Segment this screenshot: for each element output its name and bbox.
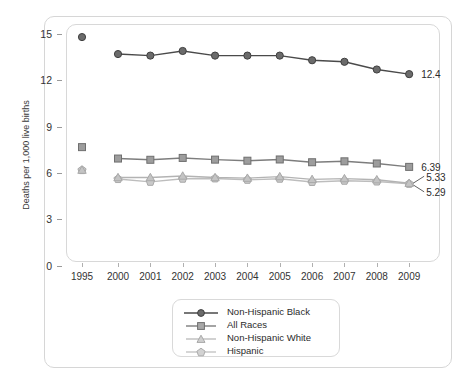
y-tick-mark: [57, 266, 62, 267]
y-tick-label: 0: [30, 260, 52, 272]
x-tick-mark: [150, 263, 151, 267]
x-tick-mark: [377, 263, 378, 267]
legend-label: Hispanic: [221, 345, 263, 356]
y-tick-mark: [57, 127, 62, 128]
label-non-hispanic-white: 5.33: [426, 172, 445, 183]
y-tick-label: 9: [30, 121, 52, 133]
label-hispanic: 5.29: [426, 186, 445, 197]
label-non-hispanic-black: 12.4: [421, 69, 440, 80]
legend-item-hispanic[interactable]: Hispanic: [181, 344, 339, 357]
y-tick-mark: [57, 173, 62, 174]
x-tick-label: 2004: [236, 271, 258, 282]
x-tick-label: 1995: [71, 271, 93, 282]
legend-label: Non-Hispanic Black: [221, 306, 310, 317]
x-tick-mark: [280, 263, 281, 267]
legend-item-all-races[interactable]: All Races: [181, 318, 339, 331]
x-tick-label: 2000: [107, 271, 129, 282]
x-tick-mark: [215, 263, 216, 267]
x-tick-label: 2009: [398, 271, 420, 282]
x-tick-mark: [409, 263, 410, 267]
legend-label: Non-Hispanic White: [221, 332, 311, 343]
x-tick-label: 2002: [172, 271, 194, 282]
legend-marker-circle-icon: [181, 305, 221, 317]
y-tick-label: 6: [30, 167, 52, 179]
chart-legend: Non-Hispanic Black All Races Non-Hispani…: [172, 299, 340, 357]
x-tick-mark: [344, 263, 345, 267]
x-tick-mark: [118, 263, 119, 267]
x-tick-label: 2003: [204, 271, 226, 282]
plot-area-border: [66, 24, 440, 262]
label-all-races: 6.39: [421, 161, 440, 172]
x-tick-mark: [247, 263, 248, 267]
x-tick-label: 2007: [333, 271, 355, 282]
legend-marker-pentagon-icon: [181, 344, 221, 356]
legend-item-non-hispanic-white[interactable]: Non-Hispanic White: [181, 331, 339, 344]
y-tick-mark: [57, 219, 62, 220]
infant-mortality-line-chart: Deaths per 1,000 live births 03691215 19…: [0, 0, 466, 375]
legend-marker-triangle-icon: [181, 331, 221, 343]
x-tick-mark: [312, 263, 313, 267]
x-tick-label: 2005: [269, 271, 291, 282]
x-tick-mark: [82, 263, 83, 267]
legend-marker-square-icon: [181, 318, 221, 330]
y-tick-label: 3: [30, 213, 52, 225]
y-tick-mark: [57, 80, 62, 81]
legend-item-non-hispanic-black[interactable]: Non-Hispanic Black: [181, 305, 339, 318]
y-tick-label: 12: [30, 74, 52, 86]
x-tick-mark: [183, 263, 184, 267]
x-tick-label: 2001: [139, 271, 161, 282]
x-tick-label: 2006: [301, 271, 323, 282]
legend-label: All Races: [221, 319, 267, 330]
y-tick-label: 15: [30, 28, 52, 40]
x-tick-label: 2008: [366, 271, 388, 282]
y-tick-mark: [57, 34, 62, 35]
